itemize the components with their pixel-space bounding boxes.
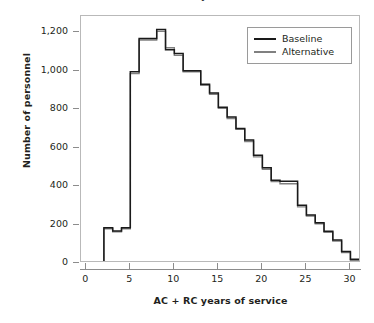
y-tick-mark — [73, 262, 79, 263]
chart-figure: Number of Personnel, by Years of Service… — [0, 0, 374, 323]
legend-swatch-alternative — [254, 51, 276, 53]
x-axis-title: AC + RC years of service — [80, 295, 361, 306]
legend-item-alternative: Alternative — [254, 45, 345, 58]
legend: Baseline Alternative — [247, 27, 352, 64]
y-tick-label: 400 — [24, 180, 68, 190]
y-tick-label: 1,000 — [24, 65, 68, 75]
y-tick-label: 600 — [24, 142, 68, 152]
y-tick-mark — [73, 224, 79, 225]
y-tick-mark — [73, 108, 79, 109]
x-tick-label: 10 — [158, 274, 188, 284]
x-tick-label: 0 — [70, 274, 100, 284]
x-tick-label: 15 — [202, 274, 232, 284]
chart-title: Number of Personnel, by Years of Service — [0, 0, 374, 2]
y-tick-label: 200 — [24, 219, 68, 229]
y-tick-mark — [73, 31, 79, 32]
y-tick-mark — [73, 147, 79, 148]
legend-item-baseline: Baseline — [254, 32, 345, 45]
y-tick-label: 800 — [24, 103, 68, 113]
y-tick-label: 0 — [24, 257, 68, 267]
y-tick-label: 1,200 — [24, 26, 68, 36]
x-tick-label: 25 — [290, 274, 320, 284]
series-line-baseline — [86, 29, 359, 262]
y-tick-mark — [73, 70, 79, 71]
x-tick-label: 30 — [334, 274, 364, 284]
x-axis-line — [80, 269, 361, 270]
x-tick-label: 20 — [246, 274, 276, 284]
y-tick-mark — [73, 185, 79, 186]
x-tick-label: 5 — [114, 274, 144, 284]
legend-label-alternative: Alternative — [282, 47, 334, 57]
legend-label-baseline: Baseline — [282, 34, 322, 44]
legend-swatch-baseline — [254, 38, 276, 40]
